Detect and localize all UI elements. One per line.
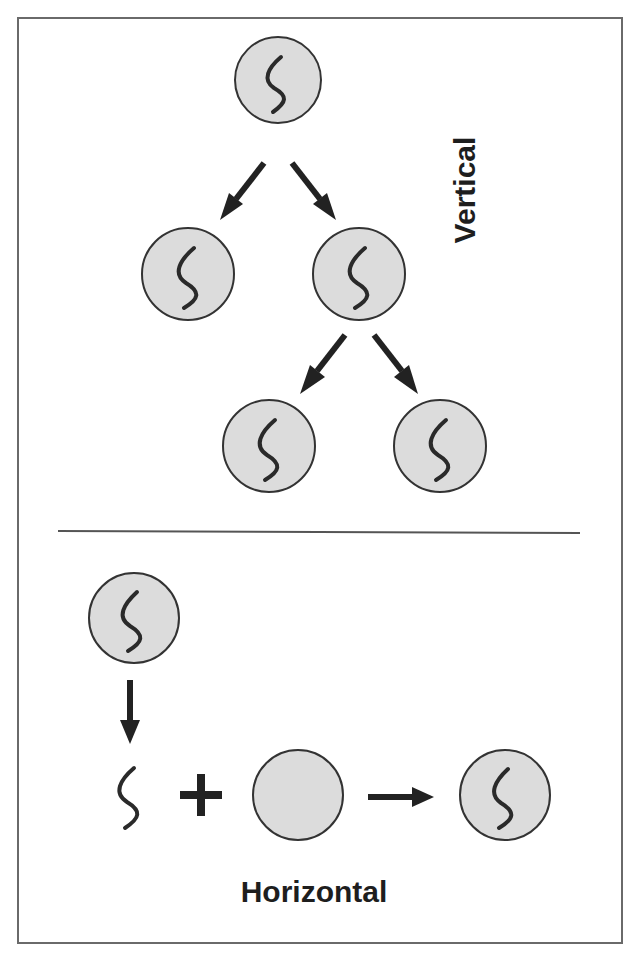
horizontal-section: Horizontal (89, 573, 550, 908)
arrow-child-to-grandchild-left (300, 335, 345, 394)
horizontal-label: Horizontal (241, 875, 388, 908)
cell-parent (235, 37, 321, 123)
cell-grandchild-left (223, 400, 315, 492)
cell-child-right (313, 228, 405, 320)
cell-result (460, 750, 550, 840)
section-divider (58, 531, 580, 533)
arrow-right (368, 787, 434, 807)
cell-recipient (253, 750, 343, 840)
free-gene-icon (119, 768, 137, 828)
arrow-down (120, 680, 140, 744)
arrow-parent-to-child-right (292, 163, 336, 220)
cell-child-left (142, 228, 234, 320)
cell-donor (89, 573, 179, 663)
vertical-section: Vertical (142, 37, 486, 492)
arrow-parent-to-child-left (220, 163, 264, 220)
arrow-child-to-grandchild-right (374, 335, 418, 394)
cell-grandchild-right (394, 400, 486, 492)
transmission-diagram: Vertical (0, 0, 639, 953)
vertical-label: Vertical (448, 137, 481, 244)
plus-icon (180, 774, 222, 816)
